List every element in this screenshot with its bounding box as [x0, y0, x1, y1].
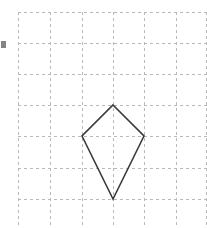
- geometry-figure-canvas: [0, 0, 207, 228]
- left-edge-mark: [1, 41, 6, 48]
- grid-and-shape-svg: [0, 0, 207, 228]
- grid-lines-group: [18, 12, 207, 228]
